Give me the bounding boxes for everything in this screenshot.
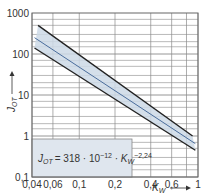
y-tick-label: 100 — [12, 49, 29, 60]
y-axis-ticks: 0,11101001000 — [7, 8, 30, 183]
x-tick-label: 0,06 — [43, 179, 63, 190]
y-tick-label: 10 — [18, 90, 30, 101]
y-axis-label: JOT — [6, 71, 18, 113]
x-tick-label: 0,2 — [108, 179, 122, 190]
y-tick-label: 1 — [23, 131, 29, 142]
x-tick-label: 1 — [195, 179, 201, 190]
x-tick-label: 0,1 — [72, 179, 86, 190]
chart: JOT= 318 · 10−12 · KW−2,24 0,11101001000… — [0, 0, 214, 195]
x-tick-label: 0,04 — [22, 179, 42, 190]
formula: JOT= 318 · 10−12 · KW−2,24 — [37, 152, 152, 165]
y-tick-label: 1000 — [7, 8, 30, 19]
svg-text:JOT: JOT — [6, 97, 18, 113]
